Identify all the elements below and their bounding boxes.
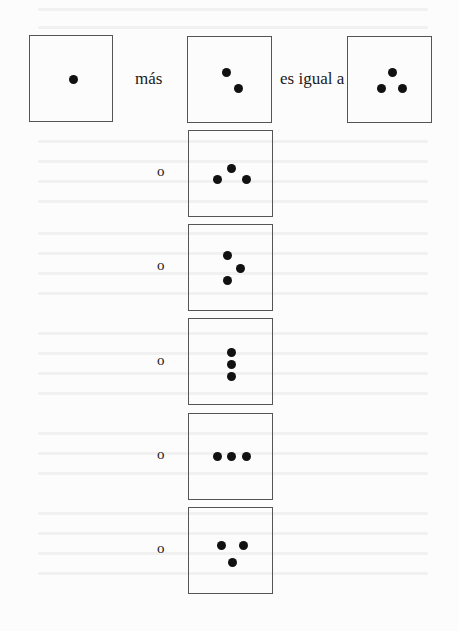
dot bbox=[228, 558, 237, 567]
dot bbox=[223, 276, 232, 285]
bleed-through-line bbox=[38, 8, 428, 11]
dot-box-alternative-5 bbox=[188, 507, 273, 594]
or-label: o bbox=[157, 447, 165, 462]
dot bbox=[217, 541, 226, 550]
dot bbox=[236, 264, 245, 273]
scanned-page: más es igual a o o o o o bbox=[0, 0, 459, 631]
or-label: o bbox=[157, 353, 165, 368]
dot bbox=[213, 175, 222, 184]
dot-box-alternative-3 bbox=[188, 318, 273, 405]
dot bbox=[227, 360, 236, 369]
dot-box-sum bbox=[347, 36, 432, 123]
dot bbox=[234, 84, 243, 93]
dot bbox=[227, 164, 236, 173]
dot bbox=[69, 75, 78, 84]
or-label: o bbox=[157, 258, 165, 273]
equals-label: es igual a bbox=[280, 70, 344, 87]
or-label: o bbox=[157, 541, 165, 556]
dot bbox=[398, 84, 407, 93]
bleed-through-line bbox=[38, 26, 428, 29]
dot bbox=[242, 175, 251, 184]
or-label: o bbox=[157, 164, 165, 179]
dot bbox=[242, 452, 251, 461]
dot-box-alternative-2 bbox=[188, 224, 273, 311]
dot bbox=[227, 452, 236, 461]
dot-box-addend-2 bbox=[187, 36, 272, 123]
dot-box-alternative-1 bbox=[188, 130, 273, 217]
dot bbox=[377, 84, 386, 93]
dot bbox=[227, 372, 236, 381]
dot bbox=[222, 68, 231, 77]
dot bbox=[388, 68, 397, 77]
dot-box-addend-1 bbox=[29, 35, 113, 122]
dot bbox=[239, 541, 248, 550]
dot-box-alternative-4 bbox=[188, 413, 273, 500]
dot bbox=[227, 348, 236, 357]
dot bbox=[223, 251, 232, 260]
dot bbox=[213, 452, 222, 461]
plus-label: más bbox=[135, 70, 162, 87]
